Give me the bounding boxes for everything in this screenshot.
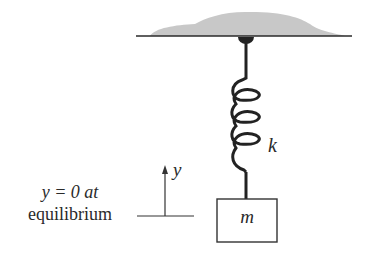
arrowhead-icon bbox=[162, 165, 168, 174]
ceiling-support bbox=[150, 12, 345, 36]
spring-coil bbox=[232, 72, 259, 172]
equilibrium-note: y = 0 at equilibrium bbox=[10, 181, 130, 225]
spring-constant-label: k bbox=[268, 134, 277, 157]
mass-label: m bbox=[216, 206, 278, 228]
equilibrium-note-line2: equilibrium bbox=[10, 203, 130, 225]
equilibrium-note-line1: y = 0 at bbox=[42, 182, 99, 202]
y-axis-label: y bbox=[173, 159, 181, 181]
